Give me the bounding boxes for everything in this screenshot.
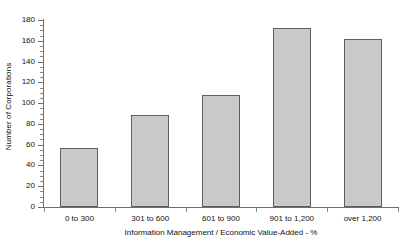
y-axis-minor-tick	[40, 108, 43, 109]
y-axis-minor-tick	[40, 171, 43, 172]
y-axis-tick	[38, 186, 43, 187]
y-axis-tick-label: 60	[9, 141, 35, 149]
y-axis-minor-tick	[40, 134, 43, 135]
y-axis-minor-tick	[40, 139, 43, 140]
y-axis-minor-tick	[40, 25, 43, 26]
y-axis-minor-tick	[40, 160, 43, 161]
y-axis-tick-label: 180	[9, 16, 35, 24]
bar	[273, 28, 311, 207]
y-axis-minor-tick	[40, 93, 43, 94]
x-axis-line	[43, 207, 399, 208]
y-axis-minor-tick	[40, 176, 43, 177]
y-axis-tick-label: 20	[9, 182, 35, 190]
y-axis-tick	[38, 145, 43, 146]
x-axis-tick	[115, 208, 116, 212]
y-axis-minor-tick	[40, 98, 43, 99]
plot-area	[44, 20, 398, 207]
y-axis-minor-tick	[40, 72, 43, 73]
y-axis-tick-label: 140	[9, 58, 35, 66]
x-axis-tick	[327, 208, 328, 212]
y-axis-minor-tick	[40, 155, 43, 156]
y-axis-minor-tick	[40, 197, 43, 198]
y-axis-tick	[38, 103, 43, 104]
y-axis-tick-label: 160	[9, 37, 35, 45]
x-axis-tick	[44, 208, 45, 212]
x-axis-category-label: over 1,200	[327, 214, 398, 223]
y-axis-minor-tick	[40, 88, 43, 89]
y-axis-minor-tick	[40, 77, 43, 78]
y-axis-tick-label: 120	[9, 78, 35, 86]
y-axis-tick-label: 0	[9, 203, 35, 211]
x-axis-category-label: 0 to 300	[44, 214, 115, 223]
y-axis-minor-tick	[40, 129, 43, 130]
y-axis-minor-tick	[40, 150, 43, 151]
bar-chart: Number of Corporations 02040608010012014…	[0, 0, 406, 247]
y-axis-tick	[38, 20, 43, 21]
y-axis-minor-tick	[40, 51, 43, 52]
x-axis-tick	[256, 208, 257, 212]
y-axis-minor-tick	[40, 30, 43, 31]
y-axis-tick	[38, 124, 43, 125]
y-axis-tick	[38, 165, 43, 166]
x-axis-category-label: 901 to 1,200	[256, 214, 327, 223]
y-axis-minor-tick	[40, 46, 43, 47]
y-axis-tick	[38, 207, 43, 208]
y-axis-tick-label: 40	[9, 161, 35, 169]
y-axis-minor-tick	[40, 67, 43, 68]
bar	[202, 95, 240, 207]
bar	[344, 39, 382, 207]
bar	[131, 115, 169, 207]
y-axis-minor-tick	[40, 191, 43, 192]
y-axis-minor-tick	[40, 36, 43, 37]
y-axis-minor-tick	[40, 119, 43, 120]
y-axis-tick-label: 100	[9, 99, 35, 107]
y-axis-minor-tick	[40, 181, 43, 182]
x-axis-category-label: 601 to 900	[186, 214, 257, 223]
bar	[60, 148, 98, 207]
y-axis-tick	[38, 62, 43, 63]
y-axis-tick	[38, 41, 43, 42]
y-axis-minor-tick	[40, 56, 43, 57]
y-axis-tick-label: 80	[9, 120, 35, 128]
y-axis-minor-tick	[40, 202, 43, 203]
y-axis-tick	[38, 82, 43, 83]
x-axis-title: Information Management / Economic Value-…	[44, 228, 398, 237]
x-axis-category-label: 301 to 600	[115, 214, 186, 223]
x-axis-tick	[186, 208, 187, 212]
y-axis-minor-tick	[40, 114, 43, 115]
x-axis-tick	[398, 208, 399, 212]
